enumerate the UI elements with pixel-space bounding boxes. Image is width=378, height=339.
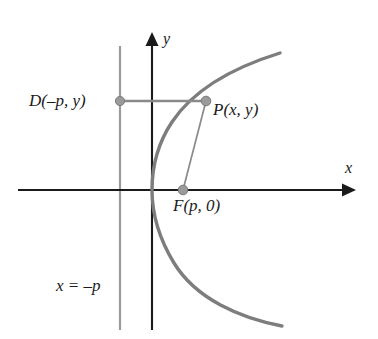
y-axis-label: y [163,31,170,47]
point-D-marker [115,96,124,105]
point-F-marker [178,185,188,195]
parabola-figure: D(–p, y) P(x, y) F(p, 0) x y x = –p [0,0,378,339]
point-f-label: F(p, 0) [173,197,220,214]
x-axis-label: x [345,160,352,176]
directrix-equation-label: x = –p [56,277,101,294]
segment-P-to-F [183,101,206,190]
point-P-marker [201,96,211,106]
point-p-label: P(x, y) [213,101,258,118]
point-d-label: D(–p, y) [29,92,86,109]
y-axis-arrowhead [146,32,159,46]
x-axis-arrowhead [342,184,356,197]
